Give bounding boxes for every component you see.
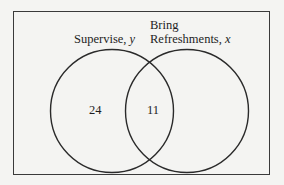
venn-circles — [0, 0, 284, 185]
supervise-variable: y — [130, 32, 136, 46]
intersection-count: 11 — [147, 103, 159, 118]
refreshments-circle — [126, 50, 249, 173]
supervise-label-text: Supervise, — [74, 32, 126, 46]
supervise-label: Supervise, y — [74, 33, 135, 46]
refreshments-label: Refreshments, x — [150, 33, 231, 46]
refreshments-label-line1: Bring — [150, 19, 178, 32]
supervise-only-count: 24 — [89, 103, 102, 118]
refreshments-label-text: Refreshments, — [150, 32, 222, 46]
refreshments-variable: x — [225, 32, 231, 46]
